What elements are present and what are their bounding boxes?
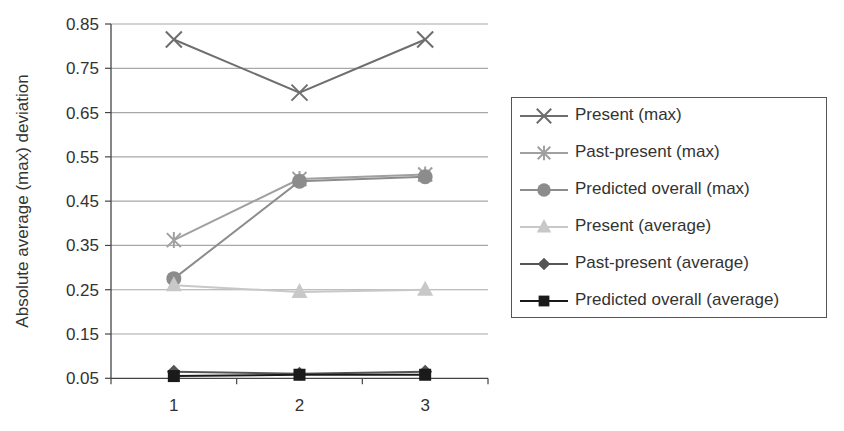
- legend-label: Predicted overall (max): [575, 179, 750, 199]
- axes: 0.850.750.650.550.450.350.250.150.05123: [66, 15, 488, 415]
- legend-item-present-max: Present (max): [512, 101, 826, 131]
- y-tick-label: 0.25: [66, 281, 99, 300]
- legend-label: Present (max): [575, 105, 682, 125]
- y-tick-label: 0.45: [66, 192, 99, 211]
- x-tick-label: 2: [295, 396, 304, 415]
- y-tick-label: 0.55: [66, 148, 99, 167]
- legend-item-present-average: Present (average): [512, 212, 826, 242]
- x-marker-icon: [520, 101, 568, 131]
- square-marker-icon: [520, 286, 568, 316]
- y-tick-label: 0.75: [66, 59, 99, 78]
- diamond-marker-icon: [520, 249, 568, 279]
- x-tick-label: 3: [420, 396, 429, 415]
- legend-label: Present (average): [575, 216, 711, 236]
- triangle-marker-icon: [520, 212, 568, 242]
- legend-item-past-present-average: Past-present (average): [512, 249, 826, 279]
- x-tick-label: 1: [169, 396, 178, 415]
- circle-marker-icon: [520, 175, 568, 205]
- y-tick-label: 0.15: [66, 325, 99, 344]
- series-present-average: [166, 276, 433, 298]
- y-tick-label: 0.35: [66, 236, 99, 255]
- legend-item-predicted-overall-max: Predicted overall (max): [512, 175, 826, 205]
- legend-item-past-present-max: Past-present (max): [512, 138, 826, 168]
- legend-label: Past-present (average): [575, 253, 749, 273]
- legend-item-predicted-overall-average: Predicted overall (average): [512, 286, 826, 316]
- y-axis-label: Absolute average (max) deviation: [13, 74, 32, 327]
- legend-label: Past-present (max): [575, 142, 720, 162]
- series-predicted-overall-average: [168, 369, 431, 382]
- legend: Present (max) Past-present (max) Predict…: [511, 97, 827, 318]
- series-predicted-overall-max: [166, 169, 432, 286]
- series-present-max: [166, 32, 433, 101]
- y-tick-label: 0.85: [66, 15, 99, 34]
- y-tick-label: 0.65: [66, 104, 99, 123]
- y-tick-label: 0.05: [66, 369, 99, 388]
- series-group: [166, 32, 433, 383]
- legend-label: Predicted overall (average): [575, 290, 779, 310]
- asterisk-marker-icon: [520, 138, 568, 168]
